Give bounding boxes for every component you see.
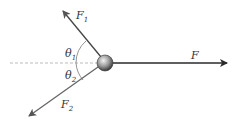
f-label: F (190, 49, 199, 62)
theta2-arc (76, 63, 83, 80)
f2-label: F2 (60, 98, 74, 113)
theta1-arc (76, 41, 86, 63)
theta2-label: θ2 (65, 69, 77, 84)
force-diagram: F1 θ1 θ2 F2 F (0, 0, 243, 122)
particle-ball (97, 55, 113, 71)
f1-label: F1 (75, 9, 88, 24)
theta1-label: θ1 (65, 47, 76, 62)
